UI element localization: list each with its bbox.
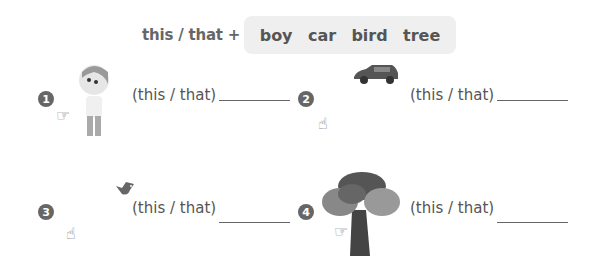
item-number-3: 3 xyxy=(38,204,54,220)
pointing-hand-near-icon: ☞ xyxy=(334,222,348,241)
item-1-prompt: (this / that) xyxy=(132,86,216,104)
boy-illustration xyxy=(74,62,114,140)
tree-illustration xyxy=(320,170,402,258)
item-2-prompt: (this / that) xyxy=(410,86,494,104)
item-4-answer-blank[interactable] xyxy=(497,222,568,223)
item-number-2: 2 xyxy=(298,91,314,107)
word-bank: boy car bird tree xyxy=(244,16,456,54)
item-number-4: 4 xyxy=(298,204,314,220)
pointing-hand-far-icon: ☝ xyxy=(66,224,76,243)
instruction-label: this / that + xyxy=(142,26,240,44)
word-bird: bird xyxy=(351,26,387,45)
car-illustration xyxy=(352,63,400,85)
pointing-hand-near-icon: ☞ xyxy=(56,106,70,125)
item-4-prompt: (this / that) xyxy=(410,199,494,217)
item-2-answer-blank[interactable] xyxy=(497,100,568,101)
item-3-answer-blank[interactable] xyxy=(219,222,290,223)
word-car: car xyxy=(308,26,336,45)
bird-illustration xyxy=(114,180,136,198)
pointing-hand-far-icon: ☝ xyxy=(318,114,328,133)
item-3-prompt: (this / that) xyxy=(132,199,216,217)
item-number-1: 1 xyxy=(38,91,54,107)
word-tree: tree xyxy=(403,26,440,45)
item-1-answer-blank[interactable] xyxy=(219,100,290,101)
word-boy: boy xyxy=(260,26,293,45)
